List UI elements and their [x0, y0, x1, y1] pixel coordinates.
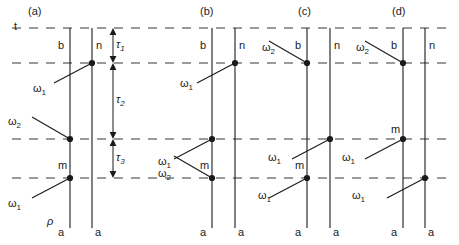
- tau-2-label: τ2: [116, 94, 125, 108]
- panel-d-caption: (d): [392, 6, 405, 17]
- panel-d-field-label-1: ω1: [342, 152, 355, 166]
- panel-d-vertex-0: [400, 60, 406, 66]
- panel-b-ket-bottom-state: a: [200, 227, 206, 238]
- tau-3-arrowhead-top: [110, 139, 117, 146]
- panel-c-field-label-1: ω1: [268, 152, 281, 166]
- tau-2-arrowhead-top: [110, 63, 117, 70]
- panel-c-ket-bottom-state: a: [295, 227, 301, 238]
- panel-d-field-label-0: ω2: [356, 42, 369, 56]
- panel-b-bra-top-state: n: [239, 40, 245, 51]
- propagator-lines: [70, 28, 425, 228]
- panel-b-ket-top-state: b: [200, 40, 206, 51]
- panel-d-bra-bottom-state: a: [428, 227, 434, 238]
- panel-c-vertex-0: [304, 60, 310, 66]
- panel-b-bra-bottom-state: a: [238, 227, 244, 238]
- panel-c-field-label-2: ω1: [258, 190, 271, 204]
- panel-c-arrow-2: [269, 178, 307, 198]
- panel-a-vertex-0: [89, 60, 95, 66]
- panel-d-ket-bottom-state: a: [391, 227, 397, 238]
- panel-d-mid-state: m: [391, 124, 400, 135]
- panel-d-field-label-2: ω1: [352, 190, 365, 204]
- time-gridlines: [12, 28, 453, 178]
- panel-a-bra-top-state: n: [96, 40, 102, 51]
- panel-c-vertex-1: [327, 136, 333, 142]
- panel-d-arrow-0: [365, 41, 403, 63]
- panel-b-field-label-2: ω2: [158, 168, 171, 182]
- panel-a-arrow-0: [54, 63, 92, 83]
- panel-a-ket-top-state: b: [58, 40, 64, 51]
- panel-a-vertex-2: [67, 175, 73, 181]
- panel-b-vertex-1: [209, 136, 215, 142]
- tau-1-label: τ1: [116, 39, 125, 53]
- panel-a-vertex-1: [67, 136, 73, 142]
- panel-a-arrow-2: [32, 178, 70, 198]
- panel-b-arrow-0: [197, 63, 235, 83]
- panel-a-caption: (a): [28, 6, 41, 17]
- tau-3-arrowhead-bottom: [110, 171, 117, 178]
- panel-b-mid-state: m: [200, 160, 209, 171]
- time-axis-label: t: [14, 21, 17, 32]
- tau-1-arrowhead-top: [110, 28, 117, 35]
- panel-c-mid-state: m: [295, 160, 304, 171]
- panel-a-field-label-1: ω2: [8, 116, 21, 130]
- panel-d-arrow-1: [365, 139, 403, 159]
- panel-c-ket-top-state: b: [295, 40, 301, 51]
- panel-a-field-label-0: ω1: [33, 83, 46, 97]
- panel-d-ket-top-state: b: [391, 40, 397, 51]
- tau-3-label: τ3: [116, 152, 125, 166]
- panel-b-vertex-0: [232, 60, 238, 66]
- feynman-diagram-figure: (a)bnaamω1ω2ω1(b)bnaamω1ω1ω2(c)bnaamω2ω1…: [0, 0, 459, 245]
- panel-d-vertex-1: [400, 136, 406, 142]
- panel-d-arrow-2: [387, 178, 425, 198]
- panel-d-bra-top-state: n: [429, 40, 435, 51]
- panel-c-vertex-2: [304, 175, 310, 181]
- tau-1-arrowhead-bottom: [110, 56, 117, 63]
- panel-b-field-label-0: ω1: [180, 78, 193, 92]
- tau-2-arrowhead-bottom: [110, 132, 117, 139]
- panel-c-field-label-0: ω2: [262, 42, 275, 56]
- panel-b-vertex-2: [209, 175, 215, 181]
- panel-b-caption: (b): [200, 6, 213, 17]
- density-matrix-label: ρ: [47, 216, 53, 227]
- panel-a-bra-bottom-state: a: [95, 227, 101, 238]
- panel-a-mid-state: m: [58, 160, 67, 171]
- panel-c-bra-top-state: n: [334, 40, 340, 51]
- panel-a-field-label-2: ω1: [8, 198, 21, 212]
- panel-c-bra-bottom-state: a: [333, 227, 339, 238]
- panel-c-arrow-1: [292, 139, 330, 159]
- panel-d-vertex-2: [422, 175, 428, 181]
- panel-a-ket-bottom-state: a: [58, 227, 64, 238]
- panel-c-caption: (c): [298, 6, 311, 17]
- panel-b-arrow-1: [174, 139, 212, 159]
- panel-a-arrow-1: [32, 117, 70, 139]
